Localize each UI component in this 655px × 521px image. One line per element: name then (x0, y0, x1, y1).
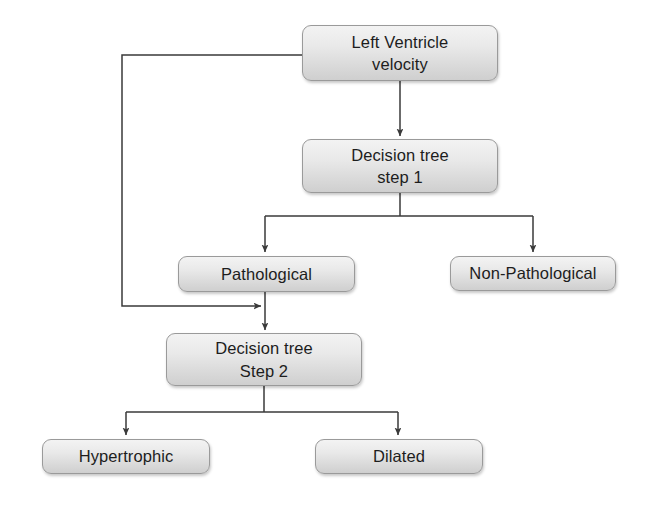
node-label-line1: Dilated (373, 445, 425, 467)
node-label-line1: Decision tree (215, 337, 313, 359)
node-dilated[interactable]: Dilated (315, 439, 483, 474)
flowchart-canvas: Left Ventricle velocity Decision tree st… (0, 0, 655, 521)
node-label-line2: Step 2 (240, 360, 288, 382)
node-label-line1: Decision tree (351, 144, 449, 166)
node-label-line2: step 1 (377, 166, 423, 188)
node-label-line1: Hypertrophic (79, 445, 174, 467)
node-label-line1: Pathological (221, 263, 312, 285)
node-left-ventricle-velocity[interactable]: Left Ventricle velocity (302, 25, 498, 81)
node-hypertrophic[interactable]: Hypertrophic (42, 439, 210, 474)
node-decision-tree-step-2[interactable]: Decision tree Step 2 (166, 333, 362, 386)
node-decision-tree-step-1[interactable]: Decision tree step 1 (302, 139, 498, 193)
node-pathological[interactable]: Pathological (178, 256, 355, 292)
node-non-pathological[interactable]: Non-Pathological (450, 256, 616, 291)
node-label-line1: Left Ventricle (352, 31, 449, 53)
node-label-line2: velocity (372, 53, 428, 75)
node-label-line1: Non-Pathological (469, 262, 596, 284)
